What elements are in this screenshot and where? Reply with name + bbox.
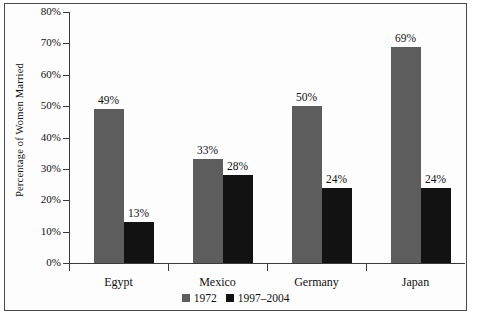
y-axis-tick-label: 10% — [13, 226, 61, 237]
x-axis-label-egypt: Egypt — [69, 275, 168, 289]
legend-item-1972[interactable]: 1972 — [182, 292, 217, 304]
y-axis-tick-label: 80% — [13, 6, 61, 17]
x-axis-separator-tick — [168, 263, 169, 271]
chart-legend: 19721997–2004 — [5, 292, 466, 304]
x-axis-separator-tick — [69, 263, 70, 271]
x-axis-separator-tick — [267, 263, 268, 271]
legend-label: 1972 — [194, 292, 217, 304]
legend-label: 1997–2004 — [238, 292, 290, 304]
bar-mexico-1997-2004 — [223, 175, 253, 263]
y-axis-tick-label-wrap: 0% — [5, 257, 61, 268]
y-axis-tick-label: 0% — [13, 257, 61, 268]
chart-figure: Percentage of Women Married 0%10%20%30%4… — [4, 3, 467, 311]
bar-mexico-1972 — [193, 159, 223, 263]
x-axis-label-mexico: Mexico — [168, 275, 267, 289]
y-axis-tick-label-wrap: 70% — [5, 37, 61, 48]
bar-egypt-1972 — [94, 109, 124, 263]
bar-value-label: 24% — [413, 173, 459, 185]
y-axis-tick-label-wrap: 10% — [5, 226, 61, 237]
bar-value-label: 50% — [284, 91, 330, 103]
bar-value-label: 28% — [215, 160, 261, 172]
bar-value-label: 13% — [116, 207, 162, 219]
legend-swatch-1972-icon — [182, 294, 190, 302]
y-axis-tick-label-wrap: 40% — [5, 132, 61, 143]
y-axis-tick-label: 20% — [13, 194, 61, 205]
y-axis-tick-label-wrap: 30% — [5, 163, 61, 174]
y-axis-tick-label-wrap: 60% — [5, 69, 61, 80]
bar-value-label: 33% — [185, 144, 231, 156]
y-axis-tick-label: 70% — [13, 37, 61, 48]
bar-japan-1972 — [391, 47, 421, 263]
bar-egypt-1997-2004 — [124, 222, 154, 263]
legend-item-1997-2004[interactable]: 1997–2004 — [226, 292, 290, 304]
x-axis-label-germany: Germany — [267, 275, 366, 289]
x-axis-label-japan: Japan — [366, 275, 465, 289]
y-axis-tick-label-wrap: 80% — [5, 6, 61, 17]
bar-germany-1997-2004 — [322, 188, 352, 263]
y-axis-tick-label: 40% — [13, 132, 61, 143]
y-axis-tick-label: 50% — [13, 100, 61, 111]
y-axis-tick-label-wrap: 50% — [5, 100, 61, 111]
bar-japan-1997-2004 — [421, 188, 451, 263]
bar-value-label: 49% — [86, 94, 132, 106]
y-axis-tick-label-wrap: 20% — [5, 194, 61, 205]
x-axis-separator-tick — [366, 263, 367, 271]
bar-value-label: 24% — [314, 173, 360, 185]
y-axis-tick-label: 30% — [13, 163, 61, 174]
bar-value-label: 69% — [383, 32, 429, 44]
legend-swatch-1997-2004-icon — [226, 294, 234, 302]
y-axis-tick-label: 60% — [13, 69, 61, 80]
plot-area: 49%13%33%28%50%24%69%24% — [69, 12, 465, 264]
